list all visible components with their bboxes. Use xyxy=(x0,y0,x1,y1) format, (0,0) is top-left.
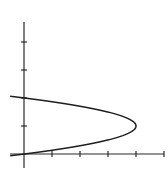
parabola-curve xyxy=(10,96,136,155)
plot-area xyxy=(0,0,168,183)
